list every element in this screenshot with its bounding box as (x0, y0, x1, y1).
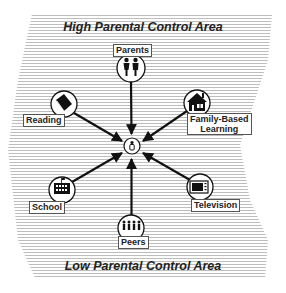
diagram-canvas: High Parental Control Area Low Parental … (0, 0, 286, 293)
arrow-parents (131, 82, 132, 134)
label-reading: Reading (23, 114, 65, 127)
television-icon (190, 181, 208, 193)
node-parents (117, 54, 145, 82)
label-parents: Parents (113, 44, 152, 57)
label-family-based-learning-line-2: Learning (190, 124, 249, 134)
node-school (49, 177, 75, 203)
high-parental-control-area-title: High Parental Control Area (0, 20, 286, 34)
center-child-node (124, 138, 140, 154)
label-family-based-learning-line-1: Family-Based (190, 114, 249, 124)
node-television (187, 174, 213, 200)
label-television: Television (191, 199, 240, 212)
label-family-based-learning: Family-Based Learning (187, 113, 252, 135)
label-school: School (29, 201, 65, 214)
label-peers: Peers (118, 236, 149, 249)
low-parental-control-area-title: Low Parental Control Area (0, 259, 286, 273)
